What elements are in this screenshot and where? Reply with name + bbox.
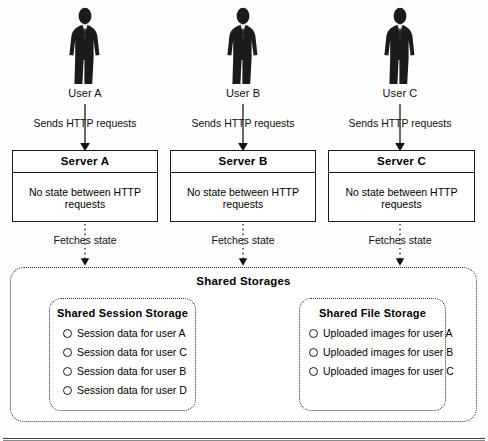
list-item: Session data for user C bbox=[63, 343, 195, 362]
circle-bullet-icon bbox=[309, 367, 318, 376]
circle-bullet-icon bbox=[309, 329, 318, 338]
server-body-text: No state between HTTP requests bbox=[171, 173, 315, 223]
server-name: Server C bbox=[329, 151, 474, 173]
shared-session-storage-list: Session data for user A Session data for… bbox=[50, 324, 195, 400]
http-request-arrow-label-c: Sends HTTP requests bbox=[315, 117, 485, 129]
shared-file-storage-title: Shared File Storage bbox=[300, 307, 445, 319]
shared-session-storage-box: Shared Session Storage Session data for … bbox=[49, 298, 196, 411]
person-icon bbox=[221, 6, 265, 86]
http-request-arrow-label-b: Sends HTTP requests bbox=[158, 117, 328, 129]
list-item: Uploaded images for user A bbox=[309, 324, 445, 343]
fetch-state-arrow-label-a: Fetches state bbox=[0, 234, 170, 246]
http-request-arrow-label-a: Sends HTTP requests bbox=[0, 117, 170, 129]
person-icon bbox=[378, 6, 422, 86]
user-label: User B bbox=[183, 87, 303, 99]
shared-file-storage-list: Uploaded images for user A Uploaded imag… bbox=[300, 324, 445, 381]
circle-bullet-icon bbox=[63, 386, 72, 395]
circle-bullet-icon bbox=[63, 348, 72, 357]
list-item-label: Uploaded images for user A bbox=[323, 324, 453, 343]
shared-storages-title: Shared Storages bbox=[11, 275, 476, 287]
list-item: Session data for user A bbox=[63, 324, 195, 343]
page-divider-rule bbox=[3, 438, 485, 439]
server-body-text: No state between HTTP requests bbox=[13, 173, 157, 223]
shared-storages-container: Shared Storages Shared Session Storage S… bbox=[10, 267, 477, 422]
circle-bullet-icon bbox=[63, 329, 72, 338]
server-name: Server B bbox=[171, 151, 315, 173]
server-box-c: Server C No state between HTTP requests bbox=[328, 150, 475, 222]
list-item: Uploaded images for user B bbox=[309, 343, 445, 362]
list-item: Session data for user D bbox=[63, 381, 195, 400]
list-item-label: Session data for user C bbox=[77, 343, 187, 362]
shared-session-storage-title: Shared Session Storage bbox=[50, 307, 195, 319]
person-icon bbox=[63, 6, 107, 86]
server-box-a: Server A No state between HTTP requests bbox=[12, 150, 158, 222]
fetch-state-arrows bbox=[0, 224, 488, 268]
stateless-architecture-diagram: User A User B User C Sends HTTP reques bbox=[0, 0, 488, 441]
server-name: Server A bbox=[13, 151, 157, 173]
list-item-label: Uploaded images for user C bbox=[323, 362, 454, 381]
list-item: Session data for user B bbox=[63, 362, 195, 381]
list-item: Uploaded images for user C bbox=[309, 362, 445, 381]
user-column-a: User A bbox=[25, 6, 145, 99]
circle-bullet-icon bbox=[63, 367, 72, 376]
list-item-label: Session data for user D bbox=[77, 381, 187, 400]
user-column-c: User C bbox=[340, 6, 460, 99]
list-item-label: Uploaded images for user B bbox=[323, 343, 453, 362]
user-column-b: User B bbox=[183, 6, 303, 99]
server-box-b: Server B No state between HTTP requests bbox=[170, 150, 316, 222]
fetch-state-arrow-label-c: Fetches state bbox=[315, 234, 485, 246]
user-label: User C bbox=[340, 87, 460, 99]
circle-bullet-icon bbox=[309, 348, 318, 357]
list-item-label: Session data for user A bbox=[77, 324, 186, 343]
fetch-state-arrow-label-b: Fetches state bbox=[158, 234, 328, 246]
list-item-label: Session data for user B bbox=[77, 362, 186, 381]
server-body-text: No state between HTTP requests bbox=[329, 173, 474, 223]
shared-file-storage-box: Shared File Storage Uploaded images for … bbox=[299, 298, 446, 411]
user-label: User A bbox=[25, 87, 145, 99]
